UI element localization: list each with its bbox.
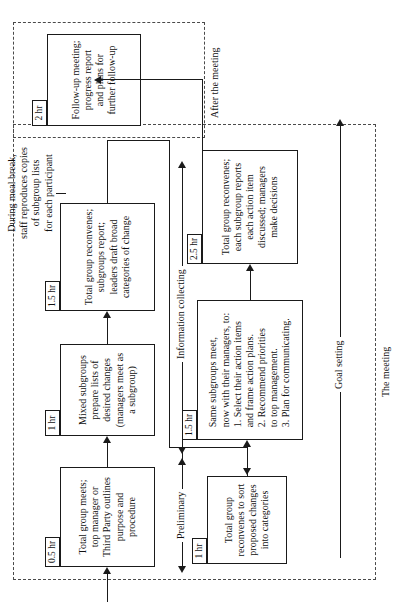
connector-meal-break-leader [56, 193, 66, 194]
arrowhead-phase-axis-mid-right [178, 458, 186, 465]
process-box-step-3-text: Total group reconvenes; subgroups report… [83, 209, 132, 306]
process-box-step-5[interactable]: Same subgroups meet, now with their mana… [197, 300, 303, 440]
arrowhead-step-5-to-step-6 [246, 264, 254, 271]
duration-tag-step-1: 0.5 hr [45, 537, 60, 567]
process-box-step-1-text: Total group meets; top manager or Third … [77, 472, 138, 562]
connector-step-1-to-step-2 [107, 443, 108, 467]
process-box-step-6[interactable]: Total group reconvenes; each subgroup re… [202, 150, 298, 264]
flowchart-canvas: The meeting After the meeting Total grou… [0, 0, 397, 604]
duration-tag-step-2: 1 hr [45, 410, 60, 436]
process-box-step-1[interactable]: Total group meets; top manager or Third … [60, 467, 155, 567]
arrowhead-step-6-to-step-7 [94, 77, 101, 85]
connector-step-6-to-step-7-vertical [101, 79, 202, 80]
process-box-step-4[interactable]: Total group reconvenes to sort proposed … [207, 476, 287, 564]
process-box-step-4-text: Total group reconvenes to sort proposed … [223, 484, 272, 557]
process-box-step-2-text: Mixed subgroups prepare lists of desired… [77, 353, 138, 427]
duration-tag-step-5: 1.5 hr [182, 410, 197, 440]
arrowhead-phase-axis-mid-left [178, 447, 186, 454]
duration-tag-step-6: 2.5 hr [187, 234, 202, 264]
arrowhead-phase-axis-start [178, 566, 186, 573]
process-box-step-2[interactable]: Mixed subgroups prepare lists of desired… [60, 344, 155, 436]
connector-step-5-to-step-6 [250, 271, 251, 300]
connector-step-6-to-step-7-horizontal [202, 79, 203, 150]
connector-bridge-return [169, 140, 170, 448]
arrowhead-step-2-to-step-3 [103, 311, 111, 318]
duration-tag-step-4: 1 hr [192, 538, 207, 564]
arrowhead-step-4-to-step-5 [243, 440, 251, 447]
arrowhead-phase-axis-end [178, 161, 186, 168]
process-box-step-3[interactable]: Total group reconvenes; subgroups report… [60, 203, 155, 311]
connector-bridge-vertical [107, 140, 169, 141]
process-box-step-5-text: Same subgroups meet, now with their mana… [207, 313, 292, 428]
connector-step-3-to-bridge [107, 141, 108, 203]
diagram-rotation-wrapper: The meeting After the meeting Total grou… [0, 0, 397, 604]
arrowhead-step-1-to-step-2 [103, 436, 111, 443]
process-box-step-6-text: Total group reconvenes; each subgroup re… [220, 159, 281, 256]
phase-label-goal-setting: Goal setting [334, 337, 344, 392]
phase-label-preliminary: Preliminary [176, 489, 186, 542]
region-caption-after-the-meeting: After the meeting [210, 47, 220, 118]
duration-tag-step-7: 2 hr [32, 100, 47, 126]
connector-step-4-to-step-5 [247, 447, 248, 476]
region-caption-the-meeting: The meeting [381, 347, 391, 397]
duration-tag-step-3: 1.5 hr [45, 281, 60, 311]
phase-label-information-collecting: Information collecting [176, 266, 186, 362]
connector-step-2-to-step-3 [107, 318, 108, 344]
arrowhead-goal-setting [336, 119, 344, 126]
arrowhead-entry-to-step-1 [103, 567, 111, 574]
annotation-meal-break: During meal break, staff reproduces copi… [6, 100, 55, 286]
connector-entry-to-step-1 [107, 574, 108, 602]
